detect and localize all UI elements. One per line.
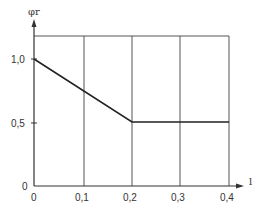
y-axis-label: φr	[28, 6, 40, 17]
x-axis-label: l	[249, 176, 252, 187]
x-tick-label-0.1: 0,1	[75, 192, 89, 203]
x-tick-label-0: 0	[31, 192, 37, 203]
x-tick-label-0.3: 0,3	[171, 192, 185, 203]
y-tick-label-1.0: 1,0	[11, 54, 25, 65]
y-tick-label-0.5: 0,5	[11, 118, 25, 129]
line-chart: φr l 1,0 0,5 0 0 0,1 0,2 0,3 0,4	[0, 0, 261, 210]
x-tick-label-0.4: 0,4	[220, 192, 234, 203]
y-tick-label-0: 0	[22, 181, 28, 192]
y-axis-arrow-icon	[32, 19, 37, 27]
x-axis-arrow-icon	[236, 184, 244, 189]
axes	[34, 24, 240, 186]
x-tick-label-0.2: 0,2	[123, 192, 137, 203]
grid	[34, 36, 229, 186]
